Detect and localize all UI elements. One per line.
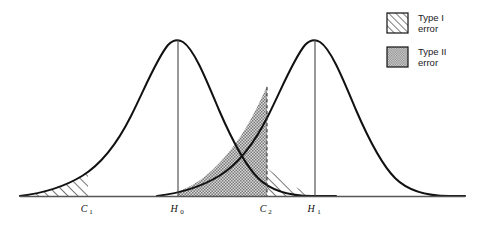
axis-label-c1: C 1 [81,203,94,216]
axis-label-h0-base: H [169,203,178,214]
axis-label-c2: C 2 [260,203,273,216]
axis-label-h1-base: H [306,203,315,214]
type-i-type-ii-error-diagram: C 1 H 0 C 2 H 1 Type I error Type II err… [0,0,501,238]
axis-label-h1-sub: 1 [317,208,321,216]
legend-item-type-ii-line1: Type II [418,46,447,57]
axis-label-c2-base: C [260,203,267,214]
axis-label-h0-sub: 0 [180,208,184,216]
axis-label-c1-sub: 1 [89,208,93,216]
type-i-error-right-area [267,168,315,196]
stipple-swatch [387,47,408,67]
axis-label-c2-sub: 2 [268,208,272,216]
type-i-error-left-region [20,172,88,196]
type-i-error-right-region [267,168,315,196]
legend-item-type-i: Type I error [387,12,444,34]
legend-item-type-i-line2: error [418,23,438,34]
type-i-error-left-area [20,172,88,196]
legend: Type I error Type II error [387,12,447,68]
legend-item-type-ii-line2: error [418,57,438,68]
axis-label-h1: H 1 [306,203,321,216]
legend-item-type-i-line1: Type I [418,12,444,23]
diagonal-hatch-swatch [387,13,408,33]
legend-item-type-ii: Type II error [387,46,447,68]
axis-label-c1-base: C [81,203,88,214]
axis-label-h0: H 0 [169,203,184,216]
